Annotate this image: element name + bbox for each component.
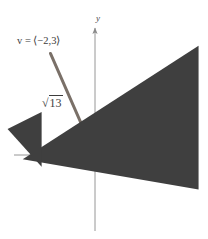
page-corner-marker-icon	[0, 0, 208, 239]
vector-diagram-figure: y x v = ⟨−2,3⟩ √13 123.69°	[0, 0, 208, 239]
